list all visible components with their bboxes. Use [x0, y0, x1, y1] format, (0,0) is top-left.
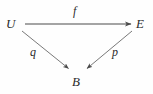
arrow-e-to-b [87, 31, 132, 69]
node-label-e: E [136, 17, 144, 30]
node-label-u: U [6, 17, 15, 30]
edge-label-q: q [30, 46, 36, 58]
commutative-diagram: U E B f q p [0, 0, 153, 94]
arrow-u-to-b [22, 31, 69, 69]
edge-label-p: p [112, 46, 118, 58]
edge-label-f: f [73, 5, 76, 17]
node-label-b: B [72, 75, 80, 88]
